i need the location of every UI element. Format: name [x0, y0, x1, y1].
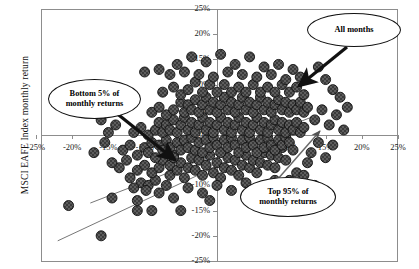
all-months-callout[interactable]: All months — [307, 13, 401, 47]
scatter-point — [122, 155, 132, 165]
scatter-point — [212, 87, 222, 97]
all-months-callout-line1: All months — [335, 25, 374, 35]
scatter-point — [172, 59, 182, 69]
scatter-point — [226, 185, 236, 195]
scatter-point — [125, 173, 135, 183]
scatter-point — [154, 64, 164, 74]
top-95-callout[interactable]: Top 95% of monthly returns — [240, 177, 336, 217]
scatter-point — [266, 70, 276, 80]
scatter-point — [179, 67, 189, 77]
scatter-point — [281, 155, 291, 165]
scatter-chart-figure: MSCI EAFE Index monthly return 25%20%15%… — [0, 0, 419, 269]
scatter-point — [179, 173, 189, 183]
scatter-point — [274, 59, 284, 69]
scatter-point — [100, 138, 110, 148]
scatter-point — [234, 170, 244, 180]
scatter-point — [132, 150, 142, 160]
scatter-point — [141, 185, 151, 195]
scatter-point — [161, 180, 171, 190]
scatter-point — [328, 85, 338, 95]
scatter-point — [147, 206, 157, 216]
scatter-point — [154, 102, 164, 112]
scatter-point — [270, 87, 280, 97]
scatter-point — [132, 206, 142, 216]
scatter-point — [150, 153, 160, 163]
scatter-point — [259, 62, 269, 72]
scatter-point — [169, 105, 179, 115]
bottom-5-callout-line1: Bottom 5% of — [66, 89, 124, 99]
scatter-point — [299, 122, 309, 132]
scatter-point — [176, 206, 186, 216]
scatter-point — [194, 70, 204, 80]
scatter-point — [252, 168, 262, 178]
scatter-point — [299, 90, 309, 100]
scatter-point — [111, 120, 121, 130]
scatter-point — [107, 158, 117, 168]
scatter-point — [328, 140, 338, 150]
scatter-point — [223, 67, 233, 77]
scatter-point — [306, 148, 316, 158]
scatter-point — [158, 87, 168, 97]
scatter-point — [198, 87, 208, 97]
bottom-5-callout[interactable]: Bottom 5% of monthly returns — [48, 79, 141, 119]
scatter-point — [125, 140, 135, 150]
scatter-point — [201, 160, 211, 170]
scatter-point — [96, 231, 106, 241]
scatter-point — [321, 153, 331, 163]
scatter-point — [129, 183, 139, 193]
scatter-point — [219, 80, 229, 90]
top-95-callout-line1: Top 95% of — [259, 187, 317, 197]
scatter-point — [64, 201, 74, 211]
scatter-point — [288, 145, 298, 155]
scatter-point — [339, 125, 349, 135]
scatter-point — [201, 57, 211, 67]
scatter-point — [107, 193, 117, 203]
scatter-point — [237, 70, 247, 80]
bottom-5-callout-line2: monthly returns — [66, 99, 124, 109]
scatter-point — [183, 183, 193, 193]
scatter-point — [331, 110, 341, 120]
scatter-point — [169, 193, 179, 203]
scatter-point — [169, 82, 179, 92]
scatter-point — [198, 170, 208, 180]
scatter-point — [335, 92, 345, 102]
scatter-point — [154, 188, 164, 198]
scatter-point — [230, 59, 240, 69]
scatter-point — [165, 70, 175, 80]
scatter-point — [216, 49, 226, 59]
scatter-point — [241, 87, 251, 97]
scatter-point — [342, 102, 352, 112]
scatter-point — [281, 75, 291, 85]
scatter-point — [324, 120, 334, 130]
scatter-point — [187, 52, 197, 62]
top-95-callout-line2: monthly returns — [259, 197, 317, 207]
scatter-point — [205, 196, 215, 206]
scatter-point — [132, 196, 142, 206]
scatter-point — [89, 148, 99, 158]
scatter-point — [198, 188, 208, 198]
scatter-point — [103, 127, 113, 137]
scatter-point — [288, 64, 298, 74]
scatter-point — [270, 163, 280, 173]
scatter-point — [303, 102, 313, 112]
scatter-point — [245, 52, 255, 62]
scatter-point — [310, 115, 320, 125]
scatter-point — [321, 75, 331, 85]
scatter-point — [140, 67, 150, 77]
scatter-point — [303, 158, 313, 168]
scatter-point — [317, 105, 327, 115]
scatter-point — [183, 85, 193, 95]
scatter-point — [208, 72, 218, 82]
scatter-point — [140, 160, 150, 170]
scatter-point — [212, 180, 222, 190]
scatter-point — [313, 138, 323, 148]
scatter-point — [252, 72, 262, 82]
